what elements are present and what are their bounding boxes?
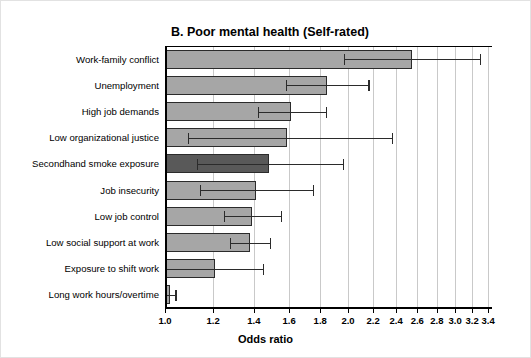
x-tick-mark [213, 308, 214, 313]
x-tick-mark [289, 308, 290, 313]
x-tick-label: 3.0 [448, 315, 461, 326]
category-label: High job demands [1, 101, 159, 122]
chart-title: B. Poor mental health (Self-rated) [171, 25, 369, 39]
x-tick-mark [455, 308, 456, 313]
error-bar-cap [197, 159, 198, 170]
error-bar-cap [230, 238, 231, 249]
x-tick-label: 2.6 [411, 315, 424, 326]
x-tick-label: 2.4 [390, 315, 403, 326]
plot-top-border [165, 46, 492, 47]
error-bar-cap [344, 54, 345, 65]
x-tick-mark [373, 308, 374, 313]
category-label: Unemployment [1, 75, 159, 96]
x-tick-mark [165, 308, 166, 313]
error-bar-cap [326, 107, 327, 118]
chart-figure: B. Poor mental health (Self-rated) 1.01.… [0, 0, 531, 358]
x-tick-label: 1.4 [247, 315, 260, 326]
error-bar-line [200, 190, 313, 191]
x-tick-mark [488, 308, 489, 313]
error-bar-cap [263, 264, 264, 275]
category-label: Exposure to shift work [1, 258, 159, 279]
x-tick-mark [472, 308, 473, 313]
x-tick-label: 2.0 [341, 315, 354, 326]
error-bar-cap [281, 211, 282, 222]
x-tick-mark [437, 308, 438, 313]
error-bar-cap [368, 80, 369, 91]
x-tick-label: 1.6 [282, 315, 295, 326]
category-label: Job insecurity [1, 180, 159, 201]
error-bar-cap [480, 54, 481, 65]
error-bar-cap [270, 238, 271, 249]
error-bar-cap [175, 290, 176, 301]
category-label: Low job control [1, 206, 159, 227]
x-tick-mark [417, 308, 418, 313]
error-bar-line [197, 164, 342, 165]
x-tick-label: 2.2 [367, 315, 380, 326]
error-bar-line [344, 59, 480, 60]
category-label: Low organizational justice [1, 127, 159, 148]
x-axis-label: Odds ratio [1, 333, 530, 345]
x-tick-mark [320, 308, 321, 313]
error-bar-line [224, 216, 281, 217]
error-bar-line [188, 138, 392, 139]
y-axis-line [165, 46, 167, 308]
error-bar-cap [258, 107, 259, 118]
x-tick-label: 2.8 [430, 315, 443, 326]
x-tick-label: 3.4 [482, 315, 495, 326]
error-bar-line [165, 269, 263, 270]
error-bar-cap [200, 185, 201, 196]
x-tick-label: 1.8 [314, 315, 327, 326]
x-tick-label: 1.2 [207, 315, 220, 326]
error-bar-cap [224, 211, 225, 222]
error-bar-line [230, 243, 270, 244]
x-tick-mark [396, 308, 397, 313]
error-bar-cap [286, 80, 287, 91]
x-tick-label: 3.2 [466, 315, 479, 326]
x-tick-mark [254, 308, 255, 313]
error-bar-cap [188, 133, 189, 144]
error-bar-line [286, 85, 369, 86]
category-label: Work-family conflict [1, 49, 159, 70]
category-label: Long work hours/overtime [1, 284, 159, 305]
category-label: Secondhand smoke exposure [1, 153, 159, 174]
x-tick-label: 1.0 [158, 315, 171, 326]
category-label: Low social support at work [1, 232, 159, 253]
error-bar-cap [343, 159, 344, 170]
error-bar-cap [313, 185, 314, 196]
x-tick-mark [348, 308, 349, 313]
error-bar-line [258, 112, 326, 113]
error-bar-cap [392, 133, 393, 144]
